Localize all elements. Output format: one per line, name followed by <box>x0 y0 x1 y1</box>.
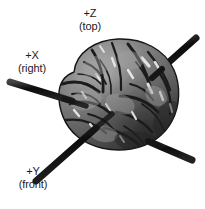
axis-label-y-desc: (front) <box>2 178 64 191</box>
axis-label-z-name: +Z <box>66 7 114 20</box>
axis-x-rod-front <box>10 82 86 106</box>
axis-label-x: +X (right) <box>3 49 61 75</box>
axis-label-x-name: +X <box>3 49 61 62</box>
axis-label-z-desc: (top) <box>66 20 114 33</box>
axis-label-z: +Z (top) <box>66 7 114 33</box>
axis-label-y-name: +Y <box>2 165 64 178</box>
axis-label-x-desc: (right) <box>3 62 61 75</box>
brain-axes-figure: +Z (top) +X (right) +Y (front) <box>0 0 205 209</box>
axis-rod-surface-stubs <box>148 69 162 146</box>
axis-label-y: +Y (front) <box>2 165 64 191</box>
